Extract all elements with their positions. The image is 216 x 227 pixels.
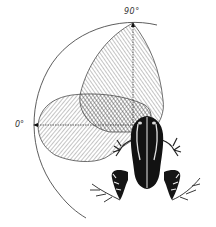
angle-label-0: 0°	[15, 121, 24, 129]
diagram-canvas	[0, 0, 216, 227]
frog-left-eye	[138, 121, 142, 124]
directionality-diagram: 90° 0°	[0, 0, 216, 227]
frog-right-hind-leg	[164, 170, 180, 200]
frog-left-hind-leg	[112, 170, 128, 200]
frog-right-front-leg	[162, 138, 181, 156]
frog-right-eye	[152, 121, 156, 124]
angle-label-90: 90°	[124, 8, 140, 16]
